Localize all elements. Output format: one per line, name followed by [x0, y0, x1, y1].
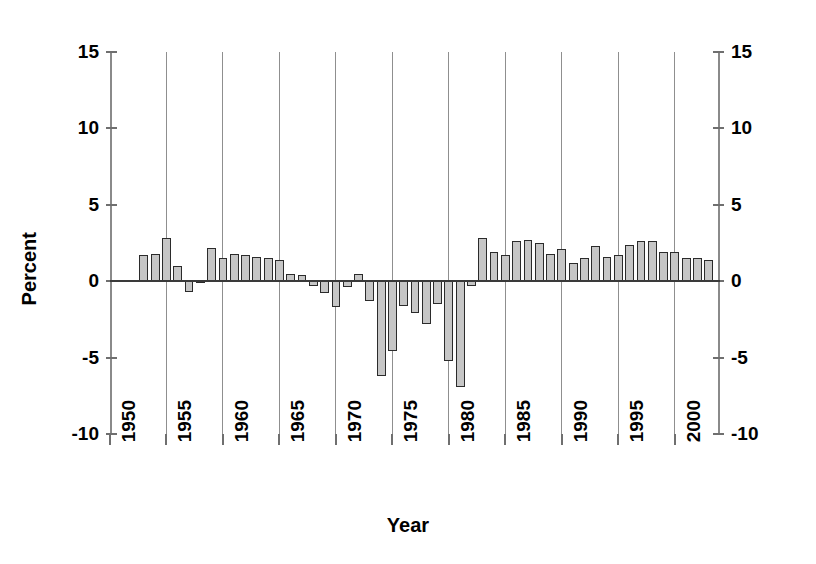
x-tick-1995: [617, 434, 619, 445]
x-axis-title: Year: [0, 514, 816, 537]
y-tick-label-left-0: 0: [88, 271, 99, 290]
x-tick-label-2000: 2000: [684, 400, 703, 442]
bar: [241, 255, 250, 281]
bar: [173, 266, 182, 281]
bar: [444, 281, 453, 360]
bar: [478, 238, 487, 281]
y-tick-label-right-10: 10: [731, 118, 752, 137]
bar: [456, 281, 465, 386]
bar: [659, 252, 668, 281]
y-tick-label-left-5: 5: [88, 195, 99, 214]
x-tick-1975: [391, 434, 393, 445]
y-tick-label-left-15: 15: [78, 42, 99, 61]
x-tick-label-1955: 1955: [175, 400, 194, 442]
bar: [512, 241, 521, 281]
bar: [433, 281, 442, 304]
bar: [162, 238, 171, 281]
bar: [332, 281, 341, 307]
x-tick-label-1990: 1990: [571, 400, 590, 442]
bar: [637, 241, 646, 281]
y-tick-label-right--10: -10: [731, 424, 758, 443]
bar: [682, 258, 691, 281]
x-tick-label-1985: 1985: [514, 400, 533, 442]
bar: [693, 258, 702, 281]
x-tick-1960: [222, 434, 224, 445]
bar: [546, 254, 555, 282]
bar: [603, 257, 612, 281]
x-tick-1955: [165, 434, 167, 445]
bar: [535, 243, 544, 281]
bar: [365, 281, 374, 301]
x-tick-label-1980: 1980: [458, 400, 477, 442]
y-tick-label-right-0: 0: [731, 271, 742, 290]
x-tick-1980: [448, 434, 450, 445]
bar: [219, 258, 228, 281]
bar: [388, 281, 397, 351]
bar: [524, 240, 533, 281]
bar: [264, 258, 273, 281]
chart-container: Percent 151510105500-5-5-10-10 195019551…: [0, 0, 816, 564]
y-tick-label-left--10: -10: [72, 424, 99, 443]
x-tick-1965: [278, 434, 280, 445]
y-tick-label-right-5: 5: [731, 195, 742, 214]
x-tick-label-1950: 1950: [119, 400, 138, 442]
bar: [648, 241, 657, 281]
bar: [377, 281, 386, 376]
x-tick-1990: [561, 434, 563, 445]
x-tick-label-1965: 1965: [288, 400, 307, 442]
bar: [670, 252, 679, 281]
bar: [207, 248, 216, 282]
x-tick-1985: [504, 434, 506, 445]
bar: [501, 255, 510, 281]
x-tick-label-1995: 1995: [627, 400, 646, 442]
bar: [320, 281, 329, 293]
bar: [252, 257, 261, 281]
bar: [230, 254, 239, 282]
x-tick-1950: [109, 434, 111, 445]
x-tick-label-1975: 1975: [401, 400, 420, 442]
x-tick-label-1960: 1960: [232, 400, 251, 442]
bar: [185, 281, 194, 292]
y-tick-label-left--5: -5: [82, 348, 99, 367]
x-tick-1970: [335, 434, 337, 445]
bar: [139, 255, 148, 281]
bar: [614, 255, 623, 281]
bar-series: [110, 52, 720, 434]
zero-baseline: [110, 280, 720, 282]
bar: [411, 281, 420, 313]
y-tick-label-right--5: -5: [731, 348, 748, 367]
y-axis-title: Percent: [18, 232, 41, 305]
x-tick-label-1970: 1970: [345, 400, 364, 442]
y-tick-label-right-15: 15: [731, 42, 752, 61]
bar: [490, 252, 499, 281]
bar: [422, 281, 431, 324]
bar: [275, 260, 284, 281]
bar: [569, 263, 578, 281]
bar: [151, 254, 160, 282]
bar: [580, 258, 589, 281]
plot-area: 151510105500-5-5-10-10: [110, 52, 720, 434]
x-tick-2000: [674, 434, 676, 445]
bar: [399, 281, 408, 305]
bar: [557, 249, 566, 281]
bar: [704, 260, 713, 281]
bar: [625, 245, 634, 282]
bar: [591, 246, 600, 281]
y-tick-label-left-10: 10: [78, 118, 99, 137]
